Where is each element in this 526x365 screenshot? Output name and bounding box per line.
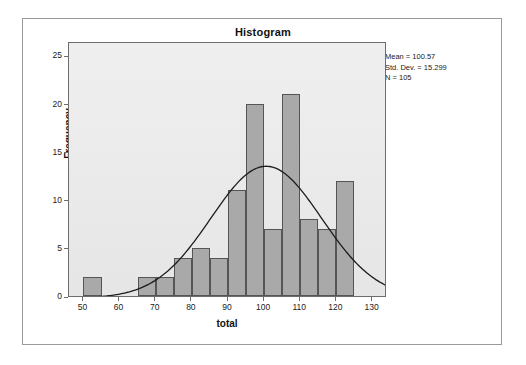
y-tick-label: 0 bbox=[57, 291, 62, 301]
normal-curve-path bbox=[69, 166, 385, 296]
stat-n: N = 105 bbox=[385, 73, 500, 84]
x-tick-label: 110 bbox=[292, 302, 306, 312]
x-tick-mark bbox=[299, 297, 300, 301]
y-tick-label: 15 bbox=[53, 147, 62, 157]
stat-std-dev: Std. Dev. = 15.299 bbox=[385, 63, 500, 74]
x-tick-label: 90 bbox=[222, 302, 231, 312]
chart-page: Histogram Frequency total Mean = 100.57 … bbox=[0, 0, 526, 365]
statistics-annotation: Mean = 100.57 Std. Dev. = 15.299 N = 105 bbox=[385, 52, 500, 84]
y-tick-label: 10 bbox=[53, 195, 62, 205]
y-tick-label: 20 bbox=[53, 99, 62, 109]
x-tick-label: 100 bbox=[256, 302, 270, 312]
x-tick-mark bbox=[154, 297, 155, 301]
x-tick-label: 50 bbox=[78, 302, 87, 312]
x-tick-label: 130 bbox=[364, 302, 378, 312]
x-tick-mark bbox=[118, 297, 119, 301]
plot-area bbox=[68, 42, 386, 297]
y-tick-mark bbox=[64, 248, 68, 249]
y-tick-mark bbox=[64, 56, 68, 57]
x-tick-label: 80 bbox=[186, 302, 195, 312]
x-tick-mark bbox=[227, 297, 228, 301]
y-tick-label: 5 bbox=[57, 243, 62, 253]
normal-curve-overlay bbox=[69, 43, 385, 296]
x-tick-mark bbox=[190, 297, 191, 301]
x-tick-mark bbox=[335, 297, 336, 301]
y-tick-mark bbox=[64, 297, 68, 298]
x-tick-mark bbox=[371, 297, 372, 301]
chart-title: Histogram bbox=[0, 26, 526, 38]
x-tick-label: 120 bbox=[328, 302, 342, 312]
stat-mean: Mean = 100.57 bbox=[385, 52, 500, 63]
x-tick-mark bbox=[263, 297, 264, 301]
x-tick-mark bbox=[82, 297, 83, 301]
plot-inner bbox=[69, 43, 385, 296]
x-tick-label: 60 bbox=[114, 302, 123, 312]
y-tick-mark bbox=[64, 200, 68, 201]
x-axis-title: total bbox=[68, 318, 386, 329]
y-tick-mark bbox=[64, 152, 68, 153]
x-tick-label: 70 bbox=[150, 302, 159, 312]
y-tick-mark bbox=[64, 104, 68, 105]
y-tick-label: 25 bbox=[53, 50, 62, 60]
